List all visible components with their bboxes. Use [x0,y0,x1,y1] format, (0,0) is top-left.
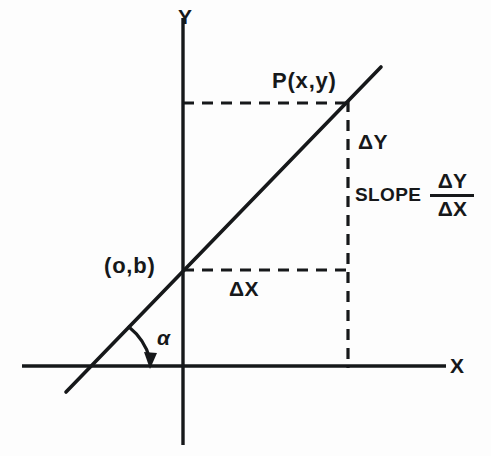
slope-numerator: ΔY [436,170,469,192]
slope-denominator: ΔX [436,198,469,220]
delta-y-label: ΔY [358,131,388,152]
delta-x-label: ΔX [229,278,259,299]
y-intercept-label: (o,b) [104,255,156,277]
slope-word-label: SLOPE [355,184,421,206]
slope-diagram-figure: Y X P(x,y) (o,b) ΔY ΔX α SLOPE ΔY ΔX [0,0,491,456]
point-p-label: P(x,y) [272,70,337,92]
slope-formula: SLOPE ΔY ΔX [355,170,474,220]
sloped-line [66,67,381,392]
slope-fraction: ΔY ΔX [430,170,474,220]
alpha-angle-label: α [157,327,171,348]
y-axis-label: Y [178,6,193,27]
x-axis-label: X [450,355,465,376]
diagram-canvas [0,0,491,456]
